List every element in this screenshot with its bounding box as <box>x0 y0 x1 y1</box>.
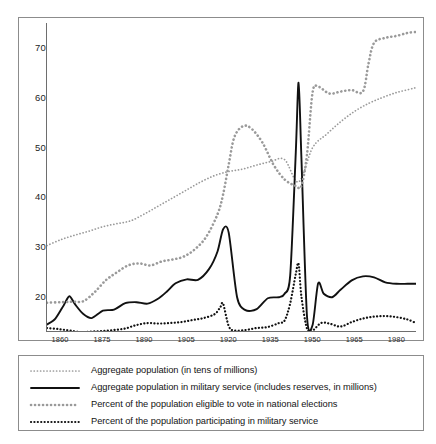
chart-legend: Aggregate population (in tens of million… <box>18 355 424 431</box>
x-axis-tick-label: 1980 <box>388 335 405 344</box>
x-axis-tick-label: 1890 <box>136 335 153 344</box>
x-axis-tick-label: 1875 <box>94 335 111 344</box>
legend-label: Aggregate population (in tens of million… <box>91 365 257 376</box>
y-axis-tick-labels: 203040506070 <box>19 18 46 332</box>
legend-item: Aggregate population (in tens of million… <box>19 362 423 379</box>
plot-area <box>46 23 416 332</box>
legend-swatch-fine-dotted <box>29 364 81 378</box>
chart-figure: 203040506070 186018751890190519201935195… <box>0 0 436 444</box>
y-axis-tick-label: 30 <box>20 242 46 252</box>
x-axis-tick-labels: 186018751890190519201935195019651980 <box>46 334 416 350</box>
series-line-1 <box>47 88 416 246</box>
x-axis-tick-label: 1920 <box>220 335 237 344</box>
x-axis-tick-label: 1950 <box>304 335 321 344</box>
legend-label: Aggregate population in military service… <box>91 382 377 393</box>
legend-swatch-square-dotted <box>29 398 81 412</box>
legend-swatch-bold-dotted <box>29 415 81 429</box>
chart-frame: 203040506070 186018751890190519201935195… <box>18 17 424 341</box>
x-axis-tick-label: 1935 <box>262 335 279 344</box>
series-line-3 <box>47 32 416 303</box>
legend-item: Aggregate population in military service… <box>19 379 423 396</box>
y-axis-tick-label: 60 <box>20 93 46 103</box>
legend-swatch-solid <box>29 381 81 395</box>
series-line-2 <box>47 83 416 331</box>
y-axis-tick-label: 40 <box>20 192 46 202</box>
legend-item: Percent of the population eligible to vo… <box>19 396 423 413</box>
series-line-4 <box>47 263 416 331</box>
y-axis-tick-label: 70 <box>20 43 46 53</box>
y-axis-tick-label: 20 <box>20 292 46 302</box>
x-axis-tick-label: 1965 <box>346 335 363 344</box>
series-canvas <box>47 23 416 331</box>
legend-label: Percent of the population eligible to vo… <box>91 399 337 410</box>
x-axis-tick-label: 1905 <box>178 335 195 344</box>
legend-item: Percent of the population participating … <box>19 413 423 430</box>
x-axis-tick-label: 1860 <box>51 335 68 344</box>
legend-label: Percent of the population participating … <box>91 416 318 427</box>
y-axis-tick-label: 50 <box>20 143 46 153</box>
